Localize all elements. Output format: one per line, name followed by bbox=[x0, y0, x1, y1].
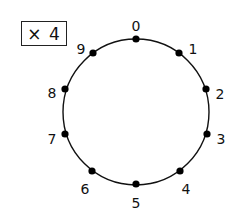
point-dot bbox=[203, 130, 210, 137]
points-layer: 0123456789 bbox=[48, 18, 226, 209]
point-label: 8 bbox=[48, 85, 57, 101]
point-label: 6 bbox=[81, 181, 90, 197]
point-dot bbox=[61, 130, 68, 137]
number-circle bbox=[63, 39, 209, 185]
circle-point-4: 4 bbox=[176, 167, 190, 197]
circle-point-1: 1 bbox=[175, 41, 197, 57]
circle-point-2: 2 bbox=[202, 85, 224, 102]
point-label: 2 bbox=[216, 86, 225, 102]
point-dot bbox=[61, 85, 68, 92]
point-dot bbox=[89, 49, 96, 56]
point-label: 7 bbox=[48, 131, 57, 147]
point-dot bbox=[88, 167, 95, 174]
point-label: 4 bbox=[182, 181, 191, 197]
circle-point-7: 7 bbox=[48, 130, 69, 147]
point-dot bbox=[176, 167, 183, 174]
circle-point-0: 0 bbox=[132, 18, 141, 43]
point-label: 1 bbox=[189, 41, 198, 57]
point-dot bbox=[132, 180, 139, 187]
circle-point-6: 6 bbox=[81, 167, 96, 197]
point-dot bbox=[132, 35, 139, 42]
point-label: 9 bbox=[77, 41, 86, 57]
point-label: 3 bbox=[217, 131, 226, 147]
point-dot bbox=[202, 85, 209, 92]
circle-point-3: 3 bbox=[203, 130, 225, 147]
point-label: 5 bbox=[132, 195, 141, 209]
circle-point-5: 5 bbox=[132, 180, 141, 209]
point-dot bbox=[175, 49, 182, 56]
point-label: 0 bbox=[132, 18, 141, 34]
circle-point-9: 9 bbox=[77, 41, 97, 57]
times-table-circle-diagram: 0123456789 bbox=[0, 0, 236, 209]
